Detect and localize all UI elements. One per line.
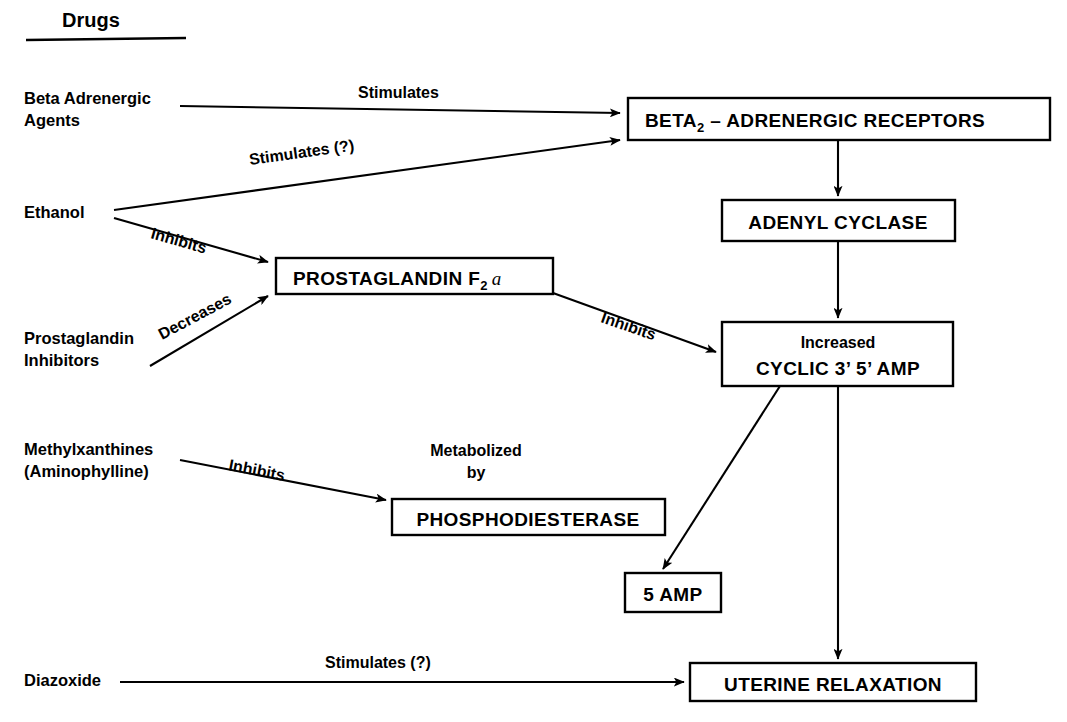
edge-label-beta-agents-to-receptors: Stimulates <box>358 84 439 101</box>
node-beta2-adrenergic-receptors[interactable]: BETA2 – ADRENERGIC RECEPTORS <box>628 98 1050 140</box>
drug-label-beta-adrenergic-agents-line1: Beta Adrenergic <box>24 89 151 107</box>
node-five-amp[interactable]: 5 AMP <box>625 573 721 612</box>
edge-label-ethanol-to-receptors: Stimulates (?) <box>248 137 355 168</box>
drug-label-prostaglandin-inhibitors-line1: Prostaglandin <box>24 329 134 347</box>
drug-label-ethanol: Ethanol <box>24 203 85 221</box>
edge-label-methylxanthines-to-phosphodiesterase: Inhibits <box>227 456 286 484</box>
node-label-five-amp: 5 AMP <box>643 584 702 605</box>
node-label-phosphodiesterase: PHOSPHODIESTERASE <box>416 509 639 530</box>
heading-underline <box>26 38 186 40</box>
drug-label-methylxanthines-line2: (Aminophylline) <box>24 462 149 480</box>
edge-label-pg-inhibitors-to-prostaglandin: Decreases <box>155 290 234 343</box>
edge-label-diazoxide-to-uterine-relaxation: Stimulates (?) <box>325 654 431 671</box>
node-label-cyclic-amp-line1: Increased <box>801 334 876 351</box>
node-adenyl-cyclase[interactable]: ADENYL CYCLASE <box>722 200 955 241</box>
edge-beta-agents-to-receptors <box>180 106 620 113</box>
node-label-cyclic-amp-line2: CYCLIC 3’ 5’ AMP <box>756 358 920 379</box>
edge-label-metabolized-line2: by <box>467 464 486 481</box>
drug-label-methylxanthines-line1: Methylxanthines <box>24 440 153 458</box>
pathway-diagram-canvas: Drugs Beta Adrenergic Agents Ethanol Pro… <box>0 0 1067 722</box>
edge-cyclic-amp-to-five-amp <box>663 386 780 569</box>
edge-label-prostaglandin-to-cyclic-amp: Inhibits <box>599 309 658 344</box>
node-label-uterine-relaxation: UTERINE RELAXATION <box>724 674 942 695</box>
node-cyclic-amp[interactable]: Increased CYCLIC 3’ 5’ AMP <box>722 322 953 386</box>
drug-pathway-diagram: Drugs Beta Adrenergic Agents Ethanol Pro… <box>0 0 1067 722</box>
edge-label-metabolized-line1: Metabolized <box>430 442 522 459</box>
drug-label-diazoxide: Diazoxide <box>24 671 101 689</box>
drug-label-prostaglandin-inhibitors-line2: Inhibitors <box>24 351 99 369</box>
node-phosphodiesterase[interactable]: PHOSPHODIESTERASE <box>392 499 665 535</box>
node-label-adenyl-cyclase: ADENYL CYCLASE <box>748 212 927 233</box>
drug-label-beta-adrenergic-agents-line2: Agents <box>24 111 80 129</box>
page-title: Drugs <box>62 9 120 31</box>
node-prostaglandin-f2a[interactable]: PROSTAGLANDIN F2a <box>276 258 553 294</box>
edge-ethanol-to-receptors <box>114 140 620 210</box>
node-uterine-relaxation[interactable]: UTERINE RELAXATION <box>690 663 976 701</box>
edge-label-ethanol-to-prostaglandin: Inhibits <box>149 225 208 257</box>
